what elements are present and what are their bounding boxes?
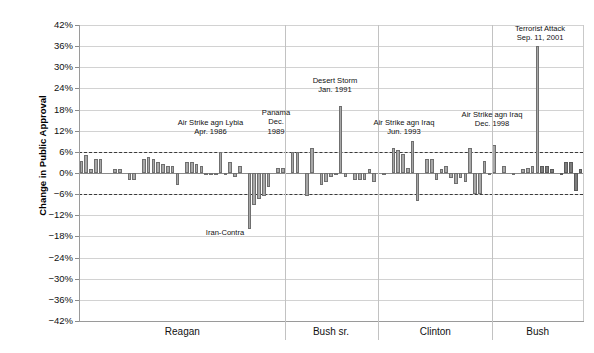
annotation-desert-storm-line1: Desert Storm <box>292 76 378 85</box>
bar <box>262 173 265 196</box>
approval-change-bar-chart: Change in Public Approval 42%36%30%24%18… <box>0 0 594 353</box>
annotation-iraq-1998: Air Strike agn Iraq Dec. 1998 <box>434 110 550 129</box>
bar <box>329 173 332 177</box>
bar <box>84 155 87 173</box>
bar <box>478 173 481 194</box>
bar <box>248 173 251 229</box>
y-tick-label: −12% <box>25 210 73 220</box>
annotation-iraq-1998-line1: Air Strike agn Iraq <box>434 110 550 119</box>
bar <box>358 173 361 180</box>
bar <box>276 168 279 173</box>
bar <box>224 173 227 175</box>
bar <box>147 157 150 173</box>
bar <box>156 162 159 173</box>
bar <box>267 173 270 187</box>
bar <box>512 173 515 175</box>
bar <box>454 173 457 184</box>
bar <box>339 106 342 173</box>
y-tick-label: −42% <box>25 316 73 326</box>
bar <box>545 166 548 173</box>
gridline-30 <box>79 67 583 68</box>
bar <box>257 173 260 199</box>
bar <box>176 173 179 185</box>
annotation-iran-contra-line1: Iran-Contra <box>180 228 270 237</box>
bar <box>488 173 491 175</box>
bar <box>219 152 222 173</box>
annotation-panama-line2: Dec. <box>248 117 304 126</box>
bar <box>171 166 174 173</box>
annotation-desert-storm: Desert Storm Jan. 1991 <box>292 76 378 95</box>
presidency-label-reagan: Reagan <box>132 326 232 337</box>
bar <box>113 169 116 173</box>
bar <box>540 166 543 173</box>
annotation-sep11-line2: Sep. 11, 2001 <box>492 33 588 42</box>
presidency-label-bush: Bush <box>488 326 588 337</box>
y-tick-label: 18% <box>25 105 73 115</box>
bar <box>320 173 323 185</box>
annotation-iran-contra: Iran-Contra <box>180 228 270 237</box>
bar <box>94 159 97 173</box>
x-axis-line <box>79 321 584 322</box>
bar <box>252 173 255 205</box>
y-tick-label: 6% <box>25 147 73 157</box>
presidency-divider <box>285 25 286 340</box>
bar <box>142 159 145 173</box>
gridline-36 <box>79 46 583 47</box>
bar <box>564 162 567 173</box>
bar <box>185 162 188 173</box>
bar <box>464 173 467 182</box>
bar <box>334 173 337 175</box>
bar <box>152 159 155 173</box>
bar <box>526 168 529 173</box>
bar <box>396 150 399 173</box>
bar <box>233 173 236 177</box>
presidency-divider <box>492 25 493 340</box>
bar <box>363 173 366 180</box>
reference-line-neg6 <box>79 194 583 195</box>
y-tick-label: −24% <box>25 253 73 263</box>
plot-area <box>79 25 583 321</box>
bar <box>459 173 462 178</box>
bar <box>411 141 414 173</box>
bar <box>440 169 443 173</box>
bar <box>372 173 375 182</box>
y-tick-label: 12% <box>25 126 73 136</box>
y-tick-label: −18% <box>25 231 73 241</box>
bar <box>401 154 404 173</box>
bar <box>425 159 428 173</box>
bar <box>291 152 294 173</box>
bar <box>444 166 447 173</box>
annotation-sep11: Terrorist Attack Sep. 11, 2001 <box>492 24 588 43</box>
bar <box>296 152 299 173</box>
y-tick-label: 0% <box>25 168 73 178</box>
bar <box>132 173 135 180</box>
bar <box>228 162 231 173</box>
bar <box>238 166 241 173</box>
y-tick-label: −36% <box>25 295 73 305</box>
plot-right-border <box>583 25 584 321</box>
bar <box>344 173 347 177</box>
gridline-neg30 <box>79 279 583 280</box>
bar <box>305 173 308 196</box>
presidency-label-bush-sr: Bush sr. <box>281 326 381 337</box>
bar <box>310 148 313 173</box>
bar <box>569 162 572 173</box>
annotation-panama-line1: Panama <box>248 108 304 117</box>
bar <box>382 173 385 175</box>
annotation-panama-line3: 1989 <box>248 127 304 136</box>
bar <box>521 169 524 173</box>
bar <box>118 169 121 173</box>
bar <box>560 173 563 175</box>
bar <box>324 173 327 182</box>
y-tick-label: 24% <box>25 83 73 93</box>
bar <box>166 166 169 173</box>
gridline-neg24 <box>79 258 583 259</box>
bar <box>190 162 193 173</box>
y-tick-label: 30% <box>25 62 73 72</box>
annotation-desert-storm-line2: Jan. 1991 <box>292 85 378 94</box>
y-tick-label: −30% <box>25 274 73 284</box>
bar <box>368 169 371 173</box>
bar <box>195 164 198 173</box>
bar <box>416 173 419 201</box>
bar <box>392 148 395 173</box>
